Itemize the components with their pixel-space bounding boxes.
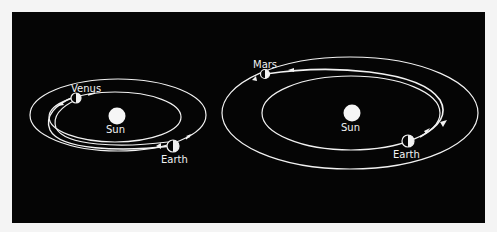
sun-icon	[109, 108, 126, 125]
mars-planet-icon	[261, 70, 270, 79]
earth-label: Earth	[393, 149, 420, 160]
sun-icon	[344, 105, 361, 122]
venus-label: Venus	[71, 83, 101, 94]
arrow-head	[440, 120, 447, 127]
earth-planet-icon	[167, 140, 179, 152]
orbit-diagrams: Sun Venus Earth Sun Mars Earth	[0, 0, 497, 232]
earth-planet-icon	[402, 135, 414, 147]
sun-label: Sun	[106, 124, 125, 135]
earth-label: Earth	[161, 154, 188, 165]
sun-label: Sun	[341, 122, 360, 133]
venus-planet-icon	[71, 93, 81, 103]
mars-label: Mars	[253, 59, 277, 70]
